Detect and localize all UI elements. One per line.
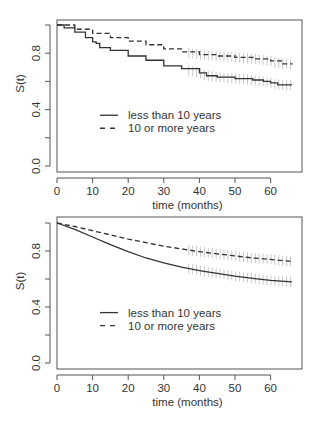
curve-ten-or-more-years bbox=[57, 25, 292, 64]
x-tick-label: 60 bbox=[264, 185, 277, 197]
curve-ten-or-more-years bbox=[57, 223, 292, 262]
x-tick-label: 40 bbox=[193, 382, 206, 394]
x-tick-label: 0 bbox=[54, 185, 60, 197]
legend-label: 10 or more years bbox=[128, 320, 215, 332]
curve-less-than-ten-years bbox=[57, 223, 292, 282]
y-tick-label: 0.0 bbox=[30, 158, 42, 174]
x-axis-label: time (months) bbox=[152, 199, 222, 211]
plot-frame bbox=[57, 217, 302, 369]
y-axis-label: S(t) bbox=[14, 74, 26, 93]
y-tick-label: 0.4 bbox=[30, 101, 42, 118]
legend-label: 10 or more years bbox=[128, 122, 215, 134]
x-tick-label: 0 bbox=[54, 382, 60, 394]
x-tick-label: 30 bbox=[157, 185, 170, 197]
x-tick-label: 20 bbox=[122, 382, 135, 394]
x-tick-label: 30 bbox=[157, 382, 170, 394]
legend-label: less than 10 years bbox=[128, 307, 222, 319]
legend-label: less than 10 years bbox=[128, 109, 222, 121]
plot-frame bbox=[57, 20, 302, 172]
y-tick-label: 0.4 bbox=[30, 298, 42, 315]
y-tick-label: 0.0 bbox=[30, 355, 42, 371]
x-tick-label: 40 bbox=[193, 185, 206, 197]
y-tick-label: 0.8 bbox=[30, 243, 42, 259]
survival-plot-1: 0.00.40.8S(t)0102030405060time (months)l… bbox=[14, 20, 302, 211]
x-tick-label: 20 bbox=[122, 185, 135, 197]
survival-charts: 0.00.40.8S(t)0102030405060time (months)l… bbox=[0, 0, 319, 422]
x-tick-label: 60 bbox=[264, 382, 277, 394]
x-axis-label: time (months) bbox=[152, 396, 222, 408]
y-axis-label: S(t) bbox=[14, 272, 26, 291]
x-tick-label: 50 bbox=[229, 382, 242, 394]
x-tick-label: 10 bbox=[86, 185, 99, 197]
survival-plot-2: 0.00.40.8S(t)0102030405060time (months)l… bbox=[14, 217, 302, 408]
y-tick-label: 0.8 bbox=[30, 45, 42, 61]
x-tick-label: 10 bbox=[86, 382, 99, 394]
x-tick-label: 50 bbox=[229, 185, 242, 197]
